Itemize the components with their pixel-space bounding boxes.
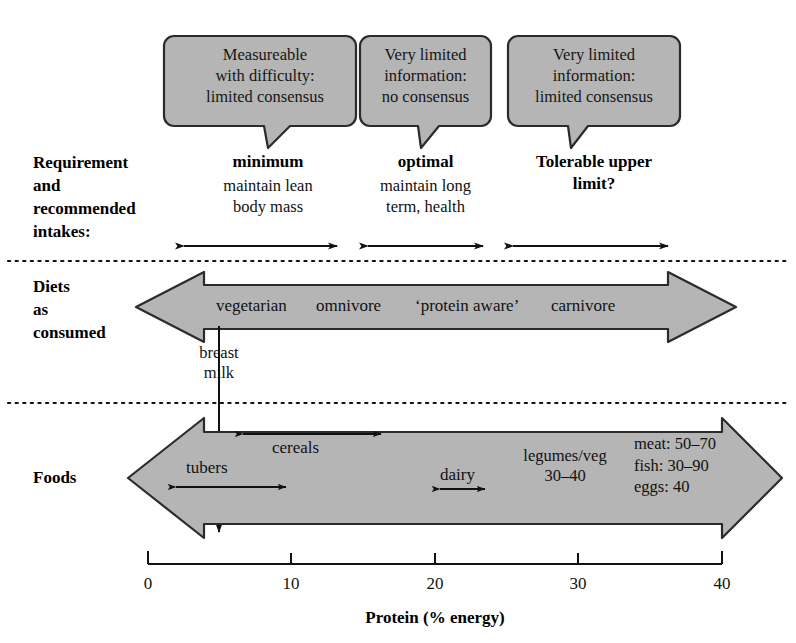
row-label-requirement: Requirement and recommended intakes: (33, 151, 136, 243)
row-label-requirement-line3: recommended (33, 197, 136, 220)
foods-label-dairy: dairy (440, 465, 475, 485)
requirement-item-1-sub1: maintain lean (185, 175, 351, 196)
figure-canvas: Measureable with difficulty: limited con… (0, 0, 796, 643)
breast-milk-line1: breast (169, 343, 269, 363)
requirement-item-3-head-line1: Tolerable upper (508, 151, 680, 173)
row-label-requirement-line2: and (33, 174, 136, 197)
x-tick-label-20: 20 (415, 574, 455, 594)
requirement-item-3-head: Tolerable upper limit? (508, 151, 680, 195)
diets-band-item-carnivore: carnivore (551, 296, 615, 316)
callout-1-text: Measureable with difficulty: limited con… (174, 44, 356, 107)
foods-label-legumes: legumes/veg 30–40 (500, 446, 630, 486)
diets-band-item-vegetarian: vegetarian (216, 296, 287, 316)
requirement-item-2-head: optimal (360, 151, 491, 173)
foods-label-tubers: tubers (186, 458, 228, 478)
diets-band-item-protein-aware: ‘protein aware’ (415, 296, 519, 316)
callout-2-line2: information: (360, 65, 491, 86)
callout-3-line1: Very limited (508, 44, 680, 65)
row-label-diets-line3: consumed (33, 321, 106, 344)
requirement-item-1-sub: maintain lean body mass (185, 175, 351, 217)
requirement-item-1-head: minimum (185, 151, 351, 173)
breast-milk-line2: milk (169, 363, 269, 383)
row-label-diets: Diets as consumed (33, 275, 106, 344)
requirement-item-2-sub1: maintain long (354, 175, 497, 196)
foods-note-eggs: eggs: 40 (634, 476, 716, 498)
foods-label-legumes-line2: 30–40 (500, 466, 630, 486)
requirement-item-1-sub2: body mass (185, 196, 351, 217)
callout-3-line2: information: (508, 65, 680, 86)
foods-notes: meat: 50–70 fish: 30–90 eggs: 40 (634, 433, 716, 498)
requirement-item-2-sub2: term, health (354, 196, 497, 217)
foods-label-legumes-line1: legumes/veg (500, 446, 630, 466)
row-label-diets-line1: Diets (33, 275, 106, 298)
callout-1-line3: limited consensus (174, 86, 356, 107)
row-label-requirement-line4: intakes: (33, 220, 136, 243)
callout-2-line3: no consensus (360, 86, 491, 107)
callout-2-text: Very limited information: no consensus (360, 44, 491, 107)
foods-note-meat: meat: 50–70 (634, 433, 716, 455)
requirement-item-3-head-line2: limit? (508, 173, 680, 195)
callout-1-line2: with difficulty: (174, 65, 356, 86)
breast-milk-label: breast milk (169, 343, 269, 383)
foods-label-cereals: cereals (272, 438, 319, 458)
x-axis (148, 551, 722, 564)
x-tick-label-0: 0 (128, 574, 168, 594)
row-label-requirement-line1: Requirement (33, 151, 136, 174)
requirement-item-2-sub: maintain long term, health (354, 175, 497, 217)
x-tick-label-40: 40 (702, 574, 742, 594)
row-label-diets-line2: as (33, 298, 106, 321)
diets-band-item-omnivore: omnivore (316, 296, 381, 316)
row-label-foods: Foods (33, 466, 76, 489)
x-tick-label-10: 10 (271, 574, 311, 594)
foods-note-fish: fish: 30–90 (634, 455, 716, 477)
x-axis-title: Protein (% energy) (285, 608, 585, 628)
callout-1-line1: Measureable (174, 44, 356, 65)
callout-2-line1: Very limited (360, 44, 491, 65)
x-tick-label-30: 30 (558, 574, 598, 594)
callout-3-text: Very limited information: limited consen… (508, 44, 680, 107)
callout-3-line3: limited consensus (508, 86, 680, 107)
